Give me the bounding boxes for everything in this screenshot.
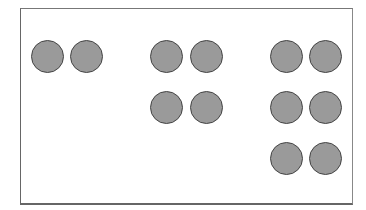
diagram-frame (20, 8, 353, 205)
circle-shape (270, 91, 303, 124)
circle-shape (31, 40, 64, 73)
circle-shape (309, 142, 342, 175)
circle-shape (309, 91, 342, 124)
circle-shape (270, 142, 303, 175)
circle-shape (190, 91, 223, 124)
circle-shape (150, 91, 183, 124)
circle-shape (150, 40, 183, 73)
circle-shape (309, 40, 342, 73)
circle-shape (270, 40, 303, 73)
circle-shape (70, 40, 103, 73)
circle-shape (190, 40, 223, 73)
